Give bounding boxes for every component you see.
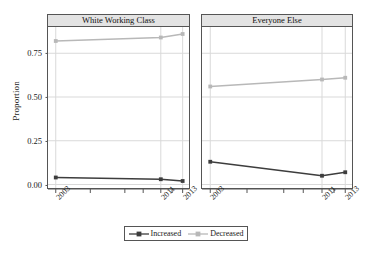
- legend-label-decreased: Decreased: [210, 230, 243, 238]
- y-tick-label: 0.50: [16, 93, 42, 102]
- plot-area-left: [47, 27, 190, 189]
- plot-lines-right: [202, 27, 352, 188]
- panel-title-left: White Working Class: [82, 16, 155, 25]
- y-axis-tick-labels: 0.75 0.50 0.25 0.00: [14, 0, 42, 256]
- panel-title-bar-right: Everyone Else: [201, 14, 353, 27]
- panel-everyone-else: Everyone Else: [201, 14, 353, 189]
- legend-entry-decreased[interactable]: Decreased: [188, 230, 243, 238]
- chart-figure: Proportion 0.75 0.50 0.25 0.00 White Wor…: [0, 0, 367, 256]
- plot-area-right: [201, 27, 353, 189]
- panel-title-bar-left: White Working Class: [47, 14, 190, 27]
- legend-swatch-increased-icon: [129, 230, 149, 238]
- panel-white-working-class: White Working Class: [47, 14, 190, 189]
- plot-lines-left: [48, 27, 189, 188]
- y-tick-label: 0.25: [16, 137, 42, 146]
- y-tick-label: 0.75: [16, 49, 42, 58]
- panel-title-right: Everyone Else: [252, 16, 301, 25]
- legend-entry-increased[interactable]: Increased: [129, 230, 182, 238]
- legend-label-increased: Increased: [151, 230, 182, 238]
- legend-swatch-decreased-icon: [188, 230, 208, 238]
- chart-legend: Increased Decreased: [124, 226, 248, 241]
